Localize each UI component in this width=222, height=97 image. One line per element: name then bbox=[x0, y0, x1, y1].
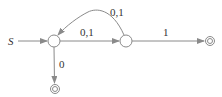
transition-label-q1-q0: 0,1 bbox=[110, 6, 124, 18]
automaton-diagram: S 0,1 0,1 1 0 bbox=[0, 0, 222, 97]
transition-label-q1-q2: 1 bbox=[163, 26, 169, 38]
state-q0 bbox=[48, 35, 60, 47]
transition-label-q0-q3: 0 bbox=[59, 58, 65, 70]
state-q1 bbox=[120, 35, 132, 47]
state-q3-accepting bbox=[51, 85, 60, 94]
transition-label-q0-q1: 0,1 bbox=[80, 26, 94, 38]
start-label: S bbox=[8, 35, 14, 47]
state-q2-accepting bbox=[206, 37, 215, 46]
transition-q0-q3 bbox=[54, 47, 55, 83]
